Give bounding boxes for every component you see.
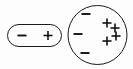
electrostatics-diagram bbox=[0, 0, 133, 69]
charged-sphere-outline[interactable] bbox=[68, 6, 127, 65]
charged-sphere-group[interactable] bbox=[68, 6, 127, 65]
diagram-canvas bbox=[0, 0, 133, 69]
charged-rod-group[interactable] bbox=[8, 25, 62, 47]
charged-rod-outline[interactable] bbox=[8, 25, 62, 47]
